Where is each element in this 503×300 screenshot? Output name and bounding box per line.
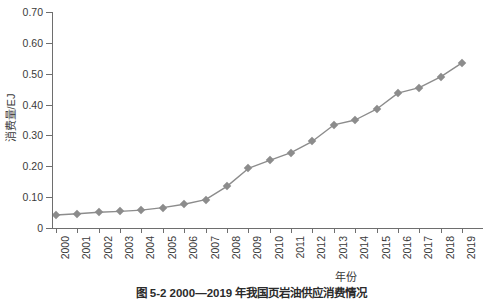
- x-tick-mark: [248, 228, 249, 233]
- y-tick-mark: [46, 228, 52, 229]
- plot-area: [52, 12, 482, 228]
- figure-caption: 图 5-2 2000—2019 年我国页岩油供应消费情况: [0, 284, 503, 300]
- x-tick-label: 2002: [103, 236, 114, 259]
- y-tick-mark: [46, 135, 52, 136]
- x-tick-label: 2010: [274, 236, 285, 259]
- x-tick-mark: [141, 228, 142, 233]
- x-tick-label: 2011: [295, 236, 306, 259]
- x-tick-mark: [99, 228, 100, 233]
- x-tick-label: 2000: [60, 236, 71, 259]
- x-tick-mark: [441, 228, 442, 233]
- y-tick-label: 0.50: [23, 68, 43, 79]
- x-tick-mark: [291, 228, 292, 233]
- y-tick-label: 0.30: [23, 130, 43, 141]
- x-tick-label: 2016: [402, 236, 413, 259]
- y-tick-label: 0.70: [23, 7, 43, 18]
- x-tick-mark: [184, 228, 185, 233]
- x-tick-label: 2015: [381, 236, 392, 259]
- x-tick-label: 2005: [167, 236, 178, 259]
- y-tick-label: 0.10: [23, 192, 43, 203]
- x-tick-mark: [462, 228, 463, 233]
- x-tick-label: 2014: [359, 236, 370, 259]
- y-axis-title: 消费量/EJ: [2, 94, 18, 143]
- x-tick-label: 2008: [231, 236, 242, 259]
- x-tick-label: 2012: [316, 236, 327, 259]
- x-tick-label: 2006: [188, 236, 199, 259]
- y-tick-mark: [46, 197, 52, 198]
- x-tick-label: 2001: [81, 236, 92, 259]
- y-tick-mark: [46, 74, 52, 75]
- x-tick-mark: [312, 228, 313, 233]
- y-tick-label: 0.40: [23, 99, 43, 110]
- y-tick-mark: [46, 166, 52, 167]
- x-tick-label: 2017: [423, 236, 434, 259]
- x-tick-mark: [355, 228, 356, 233]
- x-tick-mark: [227, 228, 228, 233]
- y-tick-label: 0: [37, 223, 43, 234]
- x-tick-label: 2009: [252, 236, 263, 259]
- y-tick-mark: [46, 12, 52, 13]
- x-tick-label: 2004: [145, 236, 156, 259]
- x-tick-label: 2013: [338, 236, 349, 259]
- x-tick-mark: [419, 228, 420, 233]
- y-tick-mark: [46, 43, 52, 44]
- x-tick-mark: [77, 228, 78, 233]
- x-tick-mark: [377, 228, 378, 233]
- y-tick-mark: [46, 105, 52, 106]
- x-tick-mark: [270, 228, 271, 233]
- data-line: [52, 12, 482, 228]
- x-tick-label: 2007: [210, 236, 221, 259]
- x-tick-label: 2018: [445, 236, 456, 259]
- y-axis-line: [52, 12, 53, 229]
- y-tick-label: 0.60: [23, 38, 43, 49]
- x-tick-mark: [56, 228, 57, 233]
- x-tick-label: 2019: [466, 236, 477, 259]
- x-axis-title: 年份: [335, 268, 357, 284]
- x-tick-mark: [163, 228, 164, 233]
- y-tick-label: 0.20: [23, 161, 43, 172]
- x-tick-mark: [120, 228, 121, 233]
- x-tick-label: 2003: [124, 236, 135, 259]
- x-tick-mark: [206, 228, 207, 233]
- x-tick-mark: [334, 228, 335, 233]
- x-tick-mark: [398, 228, 399, 233]
